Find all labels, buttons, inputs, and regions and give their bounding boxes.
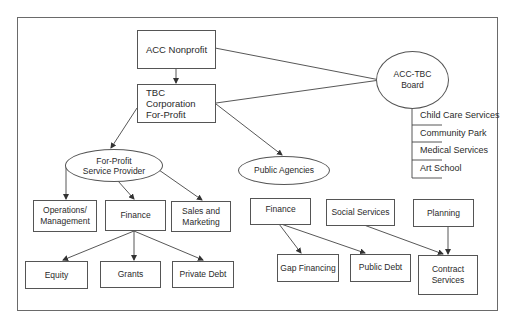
node-pa-finance: Finance <box>250 198 311 225</box>
edge-pafinance-publicdebt <box>281 224 365 253</box>
edge-tbc-forprofit <box>111 108 137 148</box>
edge-forprofit-sales <box>159 170 202 200</box>
node-planning: Planning <box>413 199 474 227</box>
node-board: ACC-TBC Board <box>376 51 449 109</box>
edge-forprofit-finance <box>118 181 134 199</box>
node-acc-nonprofit: ACC Nonprofit <box>137 30 216 69</box>
node-grants: Grants <box>100 261 161 288</box>
edge-tbc-public <box>216 104 282 155</box>
edge-pafinance-gap <box>279 224 301 253</box>
node-sales-marketing: Sales and Marketing <box>171 201 231 232</box>
edge-finance-equity <box>63 231 134 260</box>
node-social-services: Social Services <box>326 199 395 226</box>
node-public-debt: Public Debt <box>350 254 411 282</box>
org-diagram: ACC Nonprofit TBC Corporation For-Profit… <box>0 0 512 325</box>
node-public-agencies: Public Agencies <box>238 156 330 185</box>
edge-acc-board <box>215 48 380 80</box>
board-list-item: Medical Services <box>420 145 488 155</box>
node-equity: Equity <box>25 261 88 289</box>
node-operations-management: Operations/ Management <box>33 200 97 232</box>
board-list-item: Community Park <box>420 128 487 138</box>
board-list-item: Art School <box>420 163 462 173</box>
edge-tbc-board <box>216 80 380 103</box>
edge-social-contract <box>364 225 443 254</box>
node-tbc-corporation: TBC Corporation For-Profit <box>137 84 216 123</box>
board-list-item: Child Care Services <box>420 110 500 120</box>
edge-finance-privatedebt <box>134 231 203 260</box>
node-for-profit-provider: For-Profit Service Provider <box>65 149 163 182</box>
node-fp-finance: Finance <box>105 200 166 231</box>
node-private-debt: Private Debt <box>172 261 234 288</box>
node-contract-services: Contract Services <box>418 255 478 295</box>
node-gap-financing: Gap Financing <box>277 254 339 282</box>
